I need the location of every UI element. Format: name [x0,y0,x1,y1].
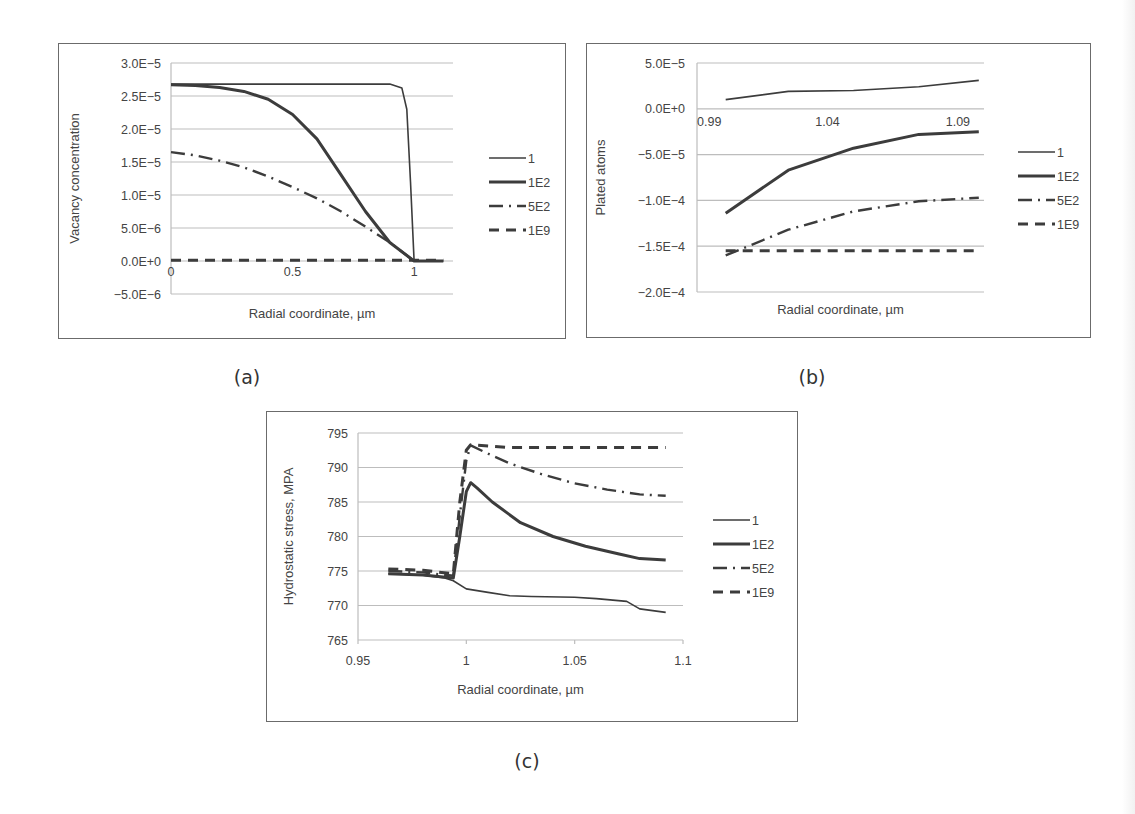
x-tick-label: 0.5 [284,265,301,279]
legend-label-1e9: 1E9 [752,586,774,600]
x-tick-label: 0.99 [697,115,721,129]
series-line-1e2 [171,85,443,261]
x-tick-label: 1.04 [815,115,839,129]
legend-label-5e2: 5E2 [752,562,774,576]
caption-b: (b) [799,366,826,388]
legend-label-1e9: 1E9 [1057,218,1079,232]
chart-panel-a: −5.0E−60.0E+05.0E−61.0E−51.5E−52.0E−52.5… [58,43,566,339]
y-tick-label: 790 [327,461,348,475]
y-tick-label: 2.0E−5 [121,123,161,137]
series-line-5e2 [171,152,414,261]
chart-panel-c: 7657707757807857907950.9511.051.1Radial … [266,411,798,722]
x-axis-title: Radial coordinate, µm [249,306,376,321]
legend-label-5e2: 5E2 [528,200,550,214]
x-tick-label: 1 [463,654,470,668]
y-tick-label: −1.5E−4 [638,240,685,254]
y-tick-label: 765 [327,634,348,648]
y-tick-label: 795 [327,427,348,441]
x-tick-label: 1 [411,265,418,279]
legend-label-1: 1 [1057,146,1064,160]
x-tick-label: 1.09 [946,115,970,129]
x-tick-label: 0 [168,265,175,279]
y-tick-label: −1.0E−4 [638,194,685,208]
legend-label-5e2: 5E2 [1057,194,1079,208]
series-line-1e2 [388,483,665,578]
series-line-1 [388,574,665,613]
y-tick-label: 2.5E−5 [121,90,161,104]
caption-c: (c) [514,750,539,772]
hydrostatic-stress-chart: 7657707757807857907950.9511.051.1Radial … [267,412,799,723]
y-tick-label: 0.0E+0 [645,102,685,116]
y-tick-label: 3.0E−5 [121,57,161,71]
y-tick-label: −2.0E−4 [638,286,685,300]
chart-panel-b: −2.0E−4−1.5E−4−1.0E−4−5.0E−50.0E+05.0E−5… [586,43,1091,338]
y-tick-label: 1.5E−5 [121,156,161,170]
legend-label-1: 1 [752,514,759,528]
caption-a: (a) [234,366,260,388]
y-tick-label: −5.0E−6 [114,288,161,302]
y-tick-label: 780 [327,530,348,544]
y-axis-title: Vacancy concentration [67,113,82,244]
legend-label-1e2: 1E2 [1057,170,1079,184]
y-tick-label: 1.0E−5 [121,189,161,203]
y-tick-label: 775 [327,565,348,579]
y-tick-label: 770 [327,599,348,613]
y-tick-label: 0.0E+0 [121,255,161,269]
x-tick-label: 1.05 [562,654,586,668]
series-line-1 [726,80,979,99]
legend-label-1: 1 [528,152,535,166]
vacancy-concentration-chart: −5.0E−60.0E+05.0E−61.0E−51.5E−52.0E−52.5… [59,44,567,340]
gridlines [358,433,683,640]
y-axis-title: Hydrostatic stress, MPA [281,467,296,605]
x-tick-label: 1.1 [674,654,691,668]
y-tick-label: 5.0E−5 [645,57,685,71]
legend: 11E25E21E9 [713,514,774,600]
page-edge-shade [1122,0,1135,814]
legend-label-1e2: 1E2 [528,176,550,190]
plated-atoms-chart: −2.0E−4−1.5E−4−1.0E−4−5.0E−50.0E+05.0E−5… [587,44,1092,339]
y-tick-label: 5.0E−6 [121,222,161,236]
legend-label-1e2: 1E2 [752,538,774,552]
legend-label-1e9: 1E9 [528,224,550,238]
y-tick-label: −5.0E−5 [638,148,685,162]
x-tick-label: 0.95 [346,654,370,668]
x-axis-title: Radial coordinate, µm [777,302,904,317]
y-tick-label: 785 [327,496,348,510]
legend: 11E25E21E9 [489,152,550,238]
series-line-1 [171,84,443,261]
y-axis-title: Plated atoms [593,139,608,215]
legend: 11E25E21E9 [1018,146,1079,232]
x-axis-title: Radial coordinate, µm [457,682,584,697]
